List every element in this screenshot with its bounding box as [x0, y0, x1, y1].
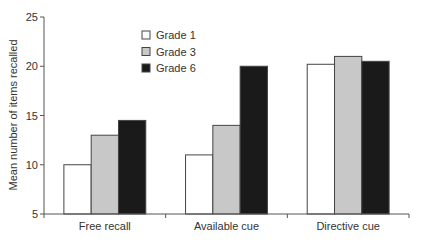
legend-swatch	[142, 64, 150, 72]
category-label: Available cue	[194, 220, 259, 232]
bar-grade-6	[240, 66, 267, 214]
legend-swatch	[142, 31, 150, 39]
bar-grade-6	[118, 120, 145, 214]
y-axis-label: Mean number of items recalled	[7, 39, 19, 190]
bar-grade-1	[186, 155, 213, 214]
bar-grade-3	[91, 135, 118, 214]
y-tick-label: 25	[26, 11, 38, 23]
bar-grade-3	[213, 125, 240, 214]
bar-grade-3	[335, 56, 362, 214]
legend-swatch	[142, 48, 150, 56]
y-tick-label: 20	[26, 60, 38, 72]
y-tick-label: 10	[26, 159, 38, 171]
y-tick-label: 15	[26, 110, 38, 122]
x-axis-category-labels: Free recallAvailable cueDirective cue	[79, 220, 380, 232]
bar-chart: 510152025 Free recallAvailable cueDirect…	[0, 0, 421, 241]
category-label: Free recall	[79, 220, 131, 232]
bar-grade-1	[64, 165, 91, 214]
y-tick-label: 5	[32, 208, 38, 220]
x-axis-ticks	[44, 214, 409, 218]
legend-label: Grade 1	[156, 29, 196, 41]
legend-label: Grade 3	[156, 46, 196, 58]
bar-grade-6	[362, 61, 389, 214]
category-label: Directive cue	[316, 220, 380, 232]
y-axis-ticks: 510152025	[26, 11, 44, 220]
legend-label: Grade 6	[156, 62, 196, 74]
bars-layer	[64, 56, 389, 214]
legend: Grade 1Grade 3Grade 6	[142, 29, 196, 74]
bar-grade-1	[307, 64, 334, 214]
